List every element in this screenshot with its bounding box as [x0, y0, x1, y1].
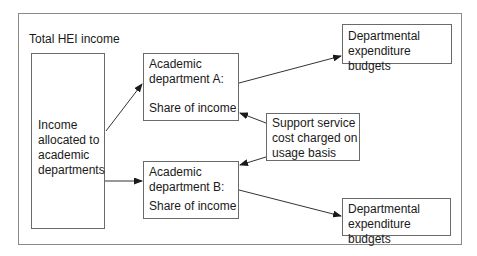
arrow-dept-a-to-budget-top — [239, 56, 341, 83]
arrows-layer — [0, 0, 477, 256]
arrow-source-to-dept-a — [106, 84, 142, 131]
arrow-support-to-dept-b — [240, 157, 266, 165]
arrow-dept-b-to-budget-bottom — [239, 190, 341, 216]
arrow-support-to-dept-a — [240, 113, 266, 123]
